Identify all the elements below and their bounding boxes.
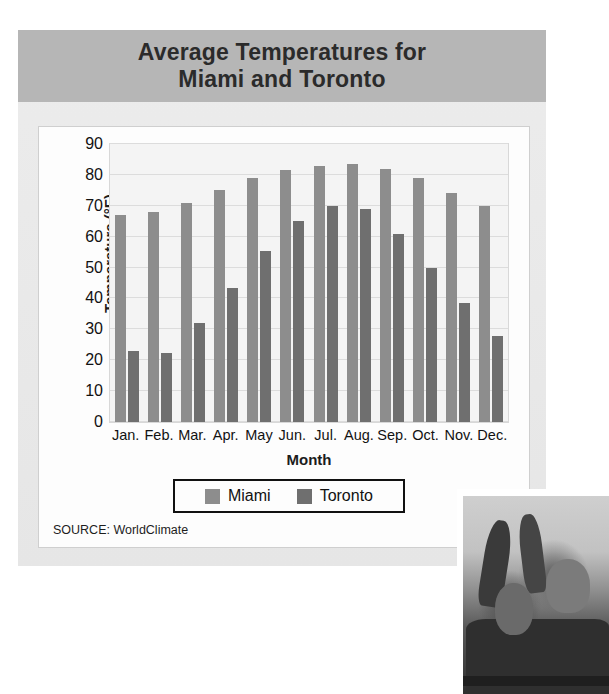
photo-rail [463,676,609,686]
month-group [309,144,342,422]
x-axis-ticks: Jan.Feb.Mar.Apr.MayJun.Jul.Aug.Sep.Oct.N… [109,427,509,443]
bar-miami-dec [479,206,490,422]
legend-label: Toronto [320,487,373,505]
month-group [276,144,309,422]
bar-toronto-mar [194,323,205,422]
bar-toronto-may [260,251,271,422]
x-axis-title: Month [109,451,509,468]
y-tick-label: 0 [94,413,103,431]
y-tick-label: 30 [85,320,103,338]
photo-head-left [495,583,533,634]
legend-entry-toronto: Toronto [297,487,373,505]
chart-title: Average Temperatures for Miami and Toron… [138,39,427,93]
bar-toronto-sep [393,234,404,422]
bar-miami-jun [280,170,291,422]
bar-toronto-oct [426,268,437,422]
photo-head-center [546,559,590,612]
photo-frame [457,489,609,694]
plot-wrap: 9080706050403020100 [109,143,509,423]
bar-toronto-feb [161,353,172,423]
month-group [375,144,408,422]
y-tick-label: 40 [85,289,103,307]
chart-card: Temperature (°F) 9080706050403020100 Jan… [38,126,530,548]
bar-toronto-jul [327,206,338,422]
source-note: SOURCE: WorldClimate [53,523,188,537]
legend-label: Miami [228,487,271,505]
x-tick-label: Jan. [109,427,142,443]
bar-miami-feb [148,212,159,422]
month-group [442,144,475,422]
bar-toronto-jan [128,351,139,422]
bar-miami-aug [347,164,358,422]
x-tick-label: Mar. [176,427,209,443]
month-group [143,144,176,422]
x-tick-label: Sep. [376,427,409,443]
legend-swatch-icon [297,489,312,504]
y-tick-label: 60 [85,228,103,246]
x-tick-label: Aug. [342,427,375,443]
month-group [243,144,276,422]
x-tick-label: Jun. [276,427,309,443]
bar-miami-nov [446,193,457,422]
chart-legend: MiamiToronto [173,479,405,513]
x-tick-label: May [242,427,275,443]
y-tick-label: 20 [85,351,103,369]
photo-raised-arm-right [517,513,548,594]
x-tick-label: Feb. [142,427,175,443]
bar-toronto-aug [360,209,371,422]
bar-miami-mar [181,203,192,422]
bar-miami-sep [380,169,391,422]
legend-swatch-icon [205,489,220,504]
month-group [342,144,375,422]
x-tick-label: Apr. [209,427,242,443]
month-group [210,144,243,422]
month-group [110,144,143,422]
y-tick-label: 90 [85,135,103,153]
bar-miami-jul [314,166,325,422]
month-group [475,144,508,422]
bar-toronto-dec [492,336,503,422]
bar-toronto-nov [459,303,470,422]
plot-area: 9080706050403020100 [109,143,509,423]
y-tick-label: 10 [85,382,103,400]
title-band: Average Temperatures for Miami and Toron… [18,30,546,102]
y-tick-label: 70 [85,197,103,215]
x-tick-label: Jul. [309,427,342,443]
y-tick-label: 80 [85,166,103,184]
bar-miami-apr [214,190,225,422]
x-tick-label: Nov. [442,427,475,443]
children-cheering-photo [463,496,609,694]
x-tick-label: Oct. [409,427,442,443]
legend-entry-miami: Miami [205,487,271,505]
bar-toronto-jun [293,221,304,422]
month-group [176,144,209,422]
bar-miami-oct [413,178,424,422]
x-tick-label: Dec. [476,427,509,443]
bars-layer [110,144,508,422]
y-tick-label: 50 [85,259,103,277]
bar-miami-jan [115,215,126,422]
month-group [409,144,442,422]
bar-toronto-apr [227,288,238,422]
bar-miami-may [247,178,258,422]
